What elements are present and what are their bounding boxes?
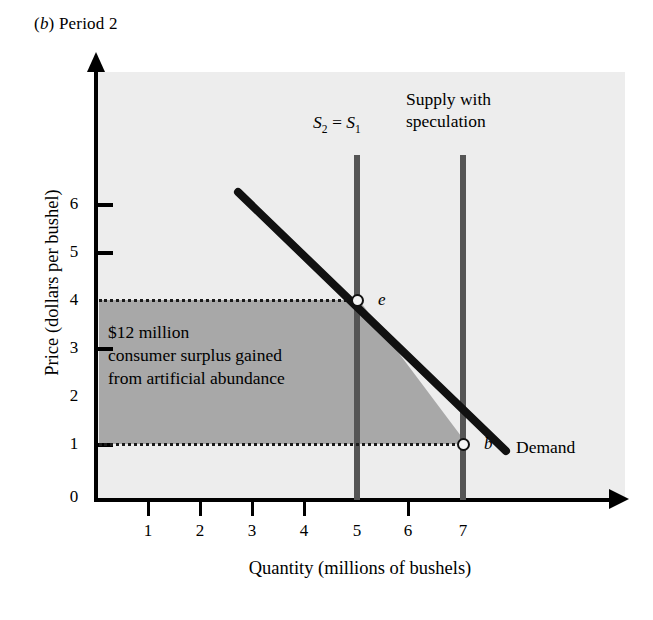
supply-base-label-sub1: 1 (355, 123, 361, 135)
x-tick-2 (199, 502, 202, 516)
consumer-surplus-annotation: $12 million consumer surplus gained from… (108, 321, 285, 390)
x-axis-title: Quantity (millions of bushels) (150, 558, 570, 579)
y-tick-label-1: 1 (62, 434, 86, 454)
x-tick-label-6: 6 (393, 521, 423, 541)
equilibrium-point-e-marker (351, 294, 364, 307)
surplus-annotation-line3: from artificial abundance (108, 367, 285, 390)
equilibrium-point-b-marker (457, 438, 470, 451)
x-tick-label-5: 5 (342, 521, 372, 541)
supply-base-label-sub2: 2 (322, 123, 328, 135)
plot-area (97, 72, 625, 500)
surplus-annotation-line1: $12 million (108, 321, 285, 344)
x-axis-arrow-icon (609, 489, 629, 509)
y-axis-arrow-icon (87, 52, 105, 72)
panel-title-label: Period 2 (59, 14, 118, 33)
x-tick-label-7: 7 (448, 521, 478, 541)
panel-letter: b (40, 14, 49, 33)
y-tick-label-6: 6 (62, 194, 86, 214)
figure-panel-period-2: (b) Period 2 6 5 4 3 2 1 0 1 2 3 4 5 6 7… (0, 0, 653, 620)
x-tick-label-3: 3 (237, 521, 267, 541)
equilibrium-point-b-label: b (484, 434, 493, 454)
x-tick-label-1: 1 (133, 521, 163, 541)
y-axis-title: Price (dollars per bushel) (42, 123, 63, 443)
x-tick-4 (303, 502, 306, 516)
y-axis-line (94, 68, 98, 502)
supply-speculation-label: Supply with speculation (406, 88, 491, 133)
x-tick-3 (251, 502, 254, 516)
y-tick-5 (98, 251, 113, 255)
x-tick-label-2: 2 (185, 521, 215, 541)
x-tick-6 (407, 502, 410, 516)
supply-base-label-s1: S (346, 112, 355, 132)
y-tick-6 (98, 203, 113, 207)
dotted-guide-price-2 (99, 443, 467, 446)
panel-title-text: (b) Period 2 (34, 14, 118, 33)
panel-title: (b) Period 2 (34, 14, 118, 34)
x-tick-1 (147, 502, 150, 516)
supply-line-s2-equals-s1 (354, 155, 360, 500)
surplus-annotation-line2: consumer surplus gained (108, 344, 285, 367)
supply-base-label: S2 = S1 (313, 112, 361, 135)
dotted-guide-price-4 (99, 299, 359, 302)
supply-speculation-label-line1: Supply with (406, 88, 491, 110)
supply-speculation-label-line2: speculation (406, 110, 491, 132)
y-tick-label-5: 5 (62, 242, 86, 262)
demand-curve-label: Demand (516, 437, 575, 458)
supply-base-label-s2: S (313, 112, 322, 132)
x-tick-label-4: 4 (289, 521, 319, 541)
supply-base-label-equals: = (331, 112, 343, 132)
y-tick-label-3: 3 (62, 338, 86, 358)
y-tick-label-2: 2 (62, 386, 86, 406)
equilibrium-point-e-label: e (378, 290, 386, 310)
y-tick-label-4: 4 (62, 290, 86, 310)
y-tick-label-0: 0 (62, 487, 86, 507)
